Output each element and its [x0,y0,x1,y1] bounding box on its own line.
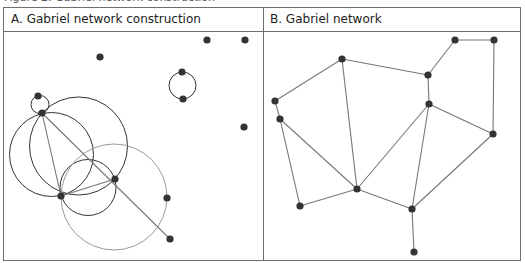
network-node [240,123,247,130]
network-node [111,175,118,182]
network-edge [429,104,493,134]
network-edge [412,104,429,209]
network-node [178,68,185,75]
network-edge [412,134,493,209]
network-edge [275,59,342,101]
network-edge [300,189,357,206]
network-node [338,55,345,62]
network-node [296,202,303,209]
network-edge [61,179,115,196]
network-node [424,71,431,78]
network-edge [493,40,494,134]
panel-a-gabriel-construction [10,36,249,250]
network-edge [42,113,170,239]
network-node [353,185,360,192]
network-edge [342,59,428,75]
network-node [425,100,432,107]
network-node [203,36,210,43]
network-edge [357,189,412,209]
network-node [276,115,283,122]
network-edge [42,113,61,196]
panel-b-gabriel-network [271,36,497,255]
network-plots [0,0,525,263]
network-node [57,192,64,199]
network-edge [280,119,300,206]
network-edge [357,104,429,189]
network-node [408,205,415,212]
network-node [451,36,458,43]
network-node [163,194,170,201]
network-node [241,36,248,43]
network-node [490,36,497,43]
network-edge [412,209,414,252]
network-node [96,53,103,60]
panel-b-edges [275,40,494,252]
network-node [410,248,417,255]
network-edge [342,59,357,189]
network-node [38,109,45,116]
network-edge [280,119,357,189]
gabriel-test-circle [169,72,196,99]
network-edge [428,75,429,104]
panel-a-edges [42,113,170,239]
panel-b-nodes [271,36,497,255]
network-node [34,92,41,99]
network-node [166,235,173,242]
network-edge [428,40,455,75]
network-node [271,97,278,104]
network-node [179,95,186,102]
network-node [489,130,496,137]
